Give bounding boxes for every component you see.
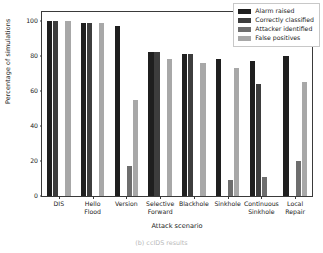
legend-item: Alarm raised <box>238 7 314 16</box>
bar <box>133 100 138 196</box>
bar <box>87 23 92 196</box>
y-axis-tick-mark <box>40 90 43 91</box>
y-axis-tick-mark <box>40 55 43 56</box>
legend-swatch-icon <box>238 9 251 15</box>
y-axis-tick-mark <box>40 160 43 161</box>
x-axis-tick-label: DIS <box>54 196 65 208</box>
bar <box>228 180 233 196</box>
bar <box>148 52 153 196</box>
bar <box>154 52 159 196</box>
x-axis-tick-label: Selective Forward <box>146 196 174 216</box>
legend-item: False positives <box>238 34 314 43</box>
legend-item: Attacker identified <box>238 25 314 34</box>
legend-item: Correctly classified <box>238 16 314 25</box>
legend-item-label: Attacker identified <box>255 26 312 32</box>
y-axis-tick-mark <box>40 125 43 126</box>
legend: Alarm raisedCorrectly classifiedAttacker… <box>233 3 320 47</box>
bar <box>53 21 58 196</box>
x-axis-tick-label: Continuous Sinkhole <box>244 196 279 216</box>
x-axis-tick-label: Sinkhole <box>214 196 240 208</box>
y-axis-tick-mark <box>40 20 43 21</box>
bar <box>127 166 132 196</box>
x-axis-tick-label: Version <box>115 196 138 208</box>
legend-swatch-icon <box>238 36 251 42</box>
legend-item-label: Alarm raised <box>255 8 294 14</box>
bar <box>283 56 288 196</box>
legend-swatch-icon <box>238 27 251 33</box>
bar <box>115 26 120 196</box>
bar <box>81 23 86 196</box>
bar <box>167 59 172 196</box>
y-axis-label: Percentage of simulations <box>4 19 12 104</box>
bar <box>296 161 301 196</box>
y-axis-tick-mark <box>40 196 43 197</box>
legend-item-label: False positives <box>255 35 300 41</box>
legend-item-label: Correctly classified <box>255 17 314 23</box>
x-axis-tick-label: Blackhole <box>179 196 209 208</box>
bar <box>47 21 52 196</box>
legend-swatch-icon <box>238 18 251 24</box>
x-axis-tick-label: Hello Flood <box>84 196 101 216</box>
bar <box>182 54 187 196</box>
bar <box>302 82 307 196</box>
figure-caption: (b) ccIDS results <box>0 239 323 247</box>
bar <box>188 54 193 196</box>
bar <box>65 21 70 196</box>
bar <box>200 63 205 196</box>
x-axis-label: Attack scenario <box>41 222 313 230</box>
bar <box>262 177 267 196</box>
bar <box>234 68 239 196</box>
bar <box>216 59 221 196</box>
bar <box>256 84 261 196</box>
figure: Percentage of simulations 020406080100DI… <box>0 0 323 253</box>
bar <box>250 61 255 196</box>
bar <box>99 23 104 196</box>
x-axis-tick-label: Local Repair <box>285 196 305 216</box>
